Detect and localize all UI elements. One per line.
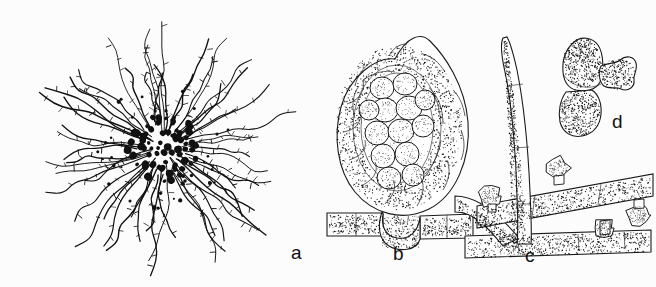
panel-label-c: c (525, 246, 535, 265)
panel-a-drawing (0, 0, 330, 287)
support-hypha-b (327, 213, 473, 239)
figure-plate: a (0, 0, 656, 287)
panel-a-colony: a (0, 0, 330, 287)
panel-label-a: a (291, 243, 302, 262)
panel-label-b: b (393, 244, 404, 263)
panel-b-cleistothecium: b (325, 0, 475, 287)
panel-d-drawing (548, 16, 656, 146)
panel-d-germling: d (548, 16, 656, 146)
middle-hypha-c (477, 174, 653, 228)
panel-label-d: d (612, 112, 623, 131)
